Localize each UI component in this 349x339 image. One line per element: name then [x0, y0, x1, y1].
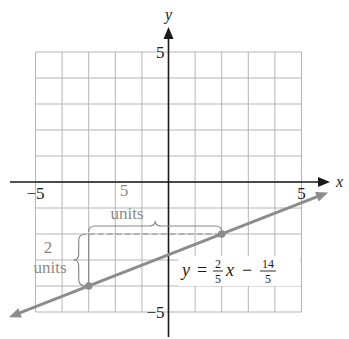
data-point — [85, 282, 93, 290]
y-tick-label: −5 — [146, 303, 164, 322]
x-tick-label: −5 — [26, 184, 44, 203]
equation-minus: − — [242, 260, 252, 280]
fraction1-numerator: 2 — [215, 257, 221, 271]
data-point — [218, 230, 226, 238]
rise-unit-label: units — [33, 258, 66, 277]
y-tick-label: 5 — [156, 43, 165, 62]
x-axis-label: x — [335, 173, 343, 190]
line-arrowhead-right-icon — [315, 192, 328, 201]
fraction1-denominator: 5 — [215, 272, 221, 286]
fraction2-numerator: 14 — [262, 257, 274, 271]
x-axis-arrow-icon — [318, 177, 330, 187]
rise-value-label: 2 — [44, 238, 53, 257]
line-arrowhead-left-icon — [9, 308, 22, 317]
equation-lhs: y — [180, 260, 190, 280]
equation-label: y = 2 5 x − 14 5 — [178, 256, 300, 286]
axes: x y — [10, 6, 343, 337]
fraction2-denominator: 5 — [265, 272, 271, 286]
run-unit-label: units — [110, 204, 143, 223]
y-axis-arrow-icon — [164, 27, 174, 39]
chart: x y −555−5 5 units 2 units y = 2 5 x − 1… — [0, 0, 349, 339]
equation-variable: x — [225, 260, 234, 280]
run-brace — [89, 221, 222, 232]
y-axis-label: y — [163, 6, 173, 24]
equation-equals: = — [197, 260, 207, 280]
run-value-label: 5 — [120, 181, 129, 200]
